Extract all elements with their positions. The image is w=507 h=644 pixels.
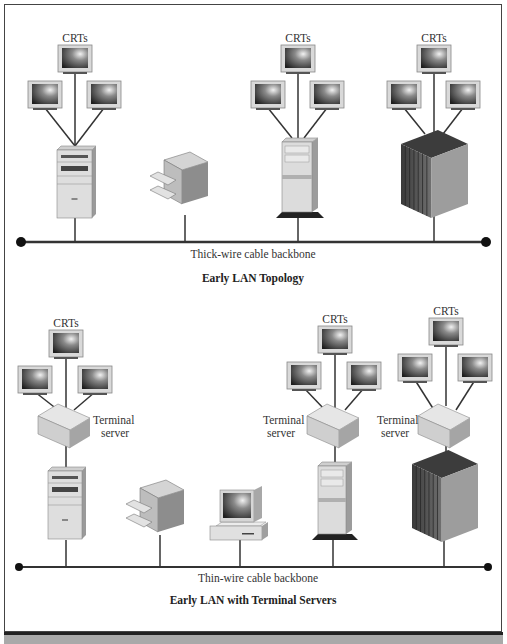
mainframe-icon [401,130,468,218]
backbone-label-thick: Thick-wire cable backbone [190,248,315,260]
tower-stripe [282,175,312,179]
monitor-screen [223,493,251,518]
crts-label: CRTs [421,32,447,44]
tower-stand [312,534,358,540]
monitor-side [254,486,262,522]
terminal-word: Terminal [263,414,304,426]
monitor-screen [62,48,88,68]
monitor-base [323,353,347,355]
devices [18,45,492,542]
monitor-base [463,381,487,383]
monitor-base [352,389,376,391]
monitor-screen [322,329,348,349]
tower-top [48,467,86,471]
drive-slot [61,155,88,158]
crt-monitor-icon [347,362,381,391]
monitor-screen [351,365,377,385]
crt-monitor-icon [87,81,121,110]
server-word: server [101,427,129,439]
monitor-screen [255,84,281,104]
minitower-server-icon [312,462,358,540]
floppy-slot [242,533,254,535]
cable-line [456,380,475,410]
terminal-server-icon [418,404,470,448]
monitor-base [23,393,47,395]
monitor-screen [433,321,459,341]
tower-handle [62,519,68,521]
crt-monitor-icon [310,81,344,110]
diagram-title-bottom: Early LAN with Terminal Servers [170,594,337,607]
monitor-screen [53,333,79,353]
printer-icon [126,480,184,532]
crts-label: CRTs [62,32,88,44]
diagram-title-top: Early LAN Topology [202,272,304,285]
terminal-server-label: Terminalserver [93,414,134,439]
monitor-base [315,108,339,110]
cable-line [304,388,325,410]
tower-top [57,146,96,150]
terminal-word: Terminal [377,414,418,426]
crt-monitor-icon [318,326,352,355]
monitor-base [33,108,57,110]
crt-monitor-icon [28,81,62,110]
backbone-terminator [484,563,492,571]
server-word: server [267,427,295,439]
terminal-server-label: Terminalserver [377,414,418,439]
monitor-screen [22,369,48,389]
desktop-side [262,522,268,540]
monitor-base [451,108,475,110]
crt-monitor-icon [458,354,492,383]
monitor-screen [291,365,317,385]
monitor-screen [462,357,488,377]
crts-label: CRTs [433,305,459,317]
drive-bay [285,146,309,153]
backbone-label-thin: Thin-wire cable backbone [198,572,318,584]
backbone-terminator [16,237,26,247]
terminal-server-label: Terminalserver [263,414,304,439]
minitower-server-icon [276,138,324,218]
crt-monitor-icon [429,318,463,347]
monitor-base [422,72,446,74]
crts-label: CRTs [285,32,311,44]
tower-side [82,467,86,539]
crt-monitor-icon [49,330,83,359]
cable-line [345,388,364,410]
terminal-server-icon [38,404,90,448]
monitor-base [83,393,107,395]
cable-line [45,108,75,146]
crt-monitor-icon [251,81,285,110]
monitor-screen [450,84,476,104]
monitor-screen [314,84,340,104]
monitor-base [63,72,87,74]
desktop-pc-icon [210,486,268,540]
cable-line [443,108,463,134]
tower-side [92,146,96,218]
printer-icon [150,152,208,204]
crts-label: CRTs [53,317,79,329]
terminal-server-icon [307,404,359,448]
drive-bay [321,470,343,477]
crt-monitor-icon [398,354,432,383]
monitor-base [92,108,116,110]
cable-line [404,108,425,134]
backbone-terminator [15,563,23,571]
monitor-screen [421,48,447,68]
tower-top [282,138,318,142]
monitor-base [434,345,458,347]
server-word: server [381,427,409,439]
cable-line [304,108,327,138]
tower-server-icon [48,467,86,539]
crt-monitor-icon [446,81,480,110]
drive-slot [52,487,78,492]
desktop-top [216,522,266,526]
monitor-screen [91,84,117,104]
monitor-base [392,108,416,110]
monitor-base [256,108,280,110]
cable-line [415,380,434,410]
tower-handle [72,198,78,200]
crt-monitor-icon [387,81,421,110]
monitor-screen [402,357,428,377]
monitor-base [292,389,316,391]
crt-monitor-icon [18,366,52,395]
backbone-terminator [481,237,491,247]
